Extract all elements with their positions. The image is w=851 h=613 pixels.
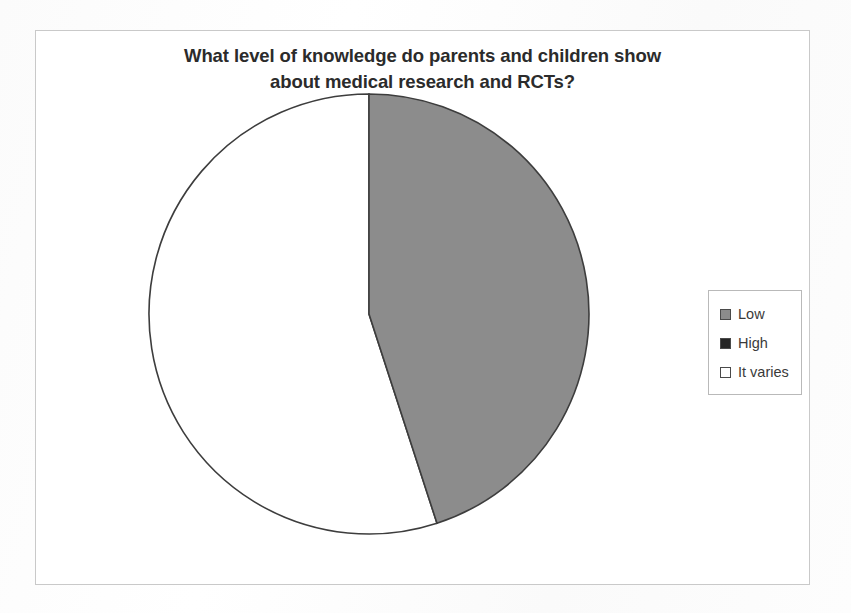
legend-label-low: Low [738,307,765,322]
pie-plot-area [144,89,594,539]
legend-item-it-varies[interactable]: It varies [720,358,801,387]
pie-svg [144,89,594,539]
chart-title: What level of knowledge do parents and c… [36,43,809,96]
legend-item-low[interactable]: Low [720,300,801,329]
legend-swatch-it-varies-icon [720,367,731,378]
chart-title-line-1: What level of knowledge do parents and c… [36,43,809,69]
chart-frame: What level of knowledge do parents and c… [35,30,810,585]
legend-item-high[interactable]: High [720,329,801,358]
legend-swatch-low-icon [720,309,731,320]
legend-swatch-high-icon [720,338,731,349]
chart-legend: Low High It varies [708,290,802,395]
legend-label-it-varies: It varies [738,365,789,380]
legend-label-high: High [738,336,768,351]
chart-screenshot: What level of knowledge do parents and c… [0,0,851,613]
